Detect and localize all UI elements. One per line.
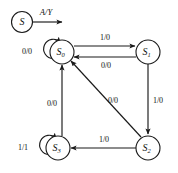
edge-label-s0-s0: 0/0: [22, 47, 32, 56]
edge-label-s3-s3: 1/1: [18, 143, 28, 152]
edge-label-s3-s0: 0/0: [47, 99, 57, 108]
edge-label-s0-s1: 1/0: [100, 33, 110, 42]
edge-s2-s0: [71, 61, 141, 137]
state-node-s3[interactable]: S3: [46, 136, 70, 160]
state-node-s2[interactable]: S2: [136, 136, 160, 160]
legend-group: S A/Y: [12, 7, 63, 33]
edge-label-s2-s0: 0/0: [108, 96, 118, 105]
state-diagram-canvas: S A/Y 1/0 0/0 1/0 1/0 0/0 0/0 0/0 1/1: [0, 0, 178, 173]
state-node-s1[interactable]: S1: [136, 40, 160, 64]
legend-state-label: S: [20, 16, 25, 27]
edge-label-s2-s3: 1/0: [99, 135, 109, 144]
state-node-s0[interactable]: S0: [50, 40, 74, 64]
legend-transition-label: A/Y: [39, 7, 54, 17]
state-machine-diagram: S A/Y 1/0 0/0 1/0 1/0 0/0 0/0 0/0 1/1: [0, 0, 178, 173]
edge-label-s1-s0: 0/0: [101, 61, 111, 70]
edge-label-s1-s2: 1/0: [153, 96, 163, 105]
